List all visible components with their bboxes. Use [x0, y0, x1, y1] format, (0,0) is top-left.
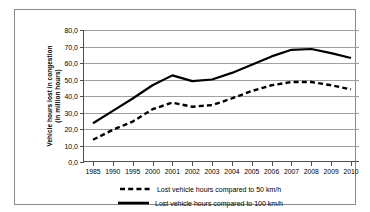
x-tick-mark [113, 162, 114, 166]
legend-item-100kmh: Lost vehicle hours compared to 100 km/h [29, 196, 370, 210]
x-tick-mark [311, 162, 312, 166]
y-tick-label: 10,0 [64, 142, 78, 149]
series-line-50kmh [93, 82, 351, 140]
legend-label-100kmh: Lost vehicle hours compared to 100 km/h [155, 200, 283, 207]
x-tick-label: 2007 [284, 168, 299, 175]
y-tick-label: 70,0 [64, 43, 78, 50]
y-tick-label: 50,0 [64, 76, 78, 83]
x-tick-mark [351, 162, 352, 166]
x-tick-mark [133, 162, 134, 166]
y-tick-label: 20,0 [64, 126, 78, 133]
chart-legend: Lost vehicle hours compared to 50 km/h L… [29, 182, 370, 210]
x-tick-label: 2006 [264, 168, 279, 175]
x-tick-mark [272, 162, 273, 166]
chart-frame: Vehicle hours lost in congestion (in mil… [14, 9, 356, 205]
y-tick-label: 30,0 [64, 109, 78, 116]
x-tick-label: 2010 [343, 168, 358, 175]
x-tick-mark [93, 162, 94, 166]
x-tick-mark [192, 162, 193, 166]
x-tick-label: 1995 [125, 168, 140, 175]
y-tick-label: 60,0 [64, 60, 78, 67]
x-tick-label: 2000 [145, 168, 160, 175]
x-tick-label: 2003 [205, 168, 220, 175]
x-tick-mark [172, 162, 173, 166]
y-tick-label: 40,0 [64, 93, 78, 100]
x-tick-label: 1985 [85, 168, 100, 175]
x-tick-label: 2009 [324, 168, 339, 175]
x-tick-mark [291, 162, 292, 166]
y-tick-label: 80,0 [64, 27, 78, 34]
x-tick-label: 1990 [105, 168, 120, 175]
series-line-100kmh [93, 49, 351, 123]
plot-area: 0,010,020,030,040,050,060,070,080,0 1985… [83, 30, 359, 162]
x-tick-mark [252, 162, 253, 166]
y-axis-title-line-1: Vehicle hours lost in congestion [46, 45, 53, 146]
series-layer [83, 30, 359, 162]
x-tick-label: 2001 [165, 168, 180, 175]
y-tick-mark [80, 162, 84, 163]
legend-item-50kmh: Lost vehicle hours compared to 50 km/h [29, 182, 370, 196]
x-tick-label: 2008 [304, 168, 319, 175]
chart-figure: Vehicle hours lost in congestion (in mil… [0, 0, 370, 212]
x-tick-label: 2002 [185, 168, 200, 175]
x-tick-mark [232, 162, 233, 166]
x-tick-mark [331, 162, 332, 166]
x-tick-mark [153, 162, 154, 166]
legend-label-50kmh: Lost vehicle hours compared to 50 km/h [157, 186, 281, 193]
x-tick-label: 2004 [224, 168, 239, 175]
y-axis-title-line-2: (in million hours) [54, 69, 61, 123]
legend-swatch-dashed [119, 184, 152, 194]
y-tick-label: 0,0 [68, 159, 78, 166]
legend-swatch-solid [117, 198, 150, 208]
x-tick-mark [212, 162, 213, 166]
x-tick-label: 2005 [244, 168, 259, 175]
y-axis-title: Vehicle hours lost in congestion (in mil… [41, 28, 65, 164]
